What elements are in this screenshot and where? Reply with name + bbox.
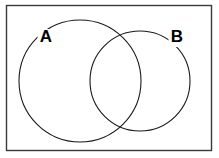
set-label-b: B: [171, 27, 183, 46]
set-circle-a: [19, 20, 141, 142]
set-label-a: A: [40, 27, 52, 46]
venn-diagram-canvas: A B: [0, 0, 219, 158]
venn-diagram-figure: A B: [0, 0, 219, 158]
